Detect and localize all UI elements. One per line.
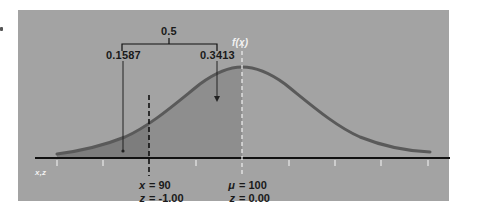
z-value: = -1.00 (149, 192, 184, 205)
normal-distribution-diagram: 0.5 0.1587 0.3413 f(x) x,z x= 90 z= -1.0… (0, 0, 484, 223)
normal-curve (57, 67, 430, 154)
x-var: x (136, 179, 145, 192)
mu-value: = 100 (239, 179, 267, 192)
axis-label: x,z (35, 168, 46, 177)
x90-annotation: x= 90 z= -1.00 (136, 179, 184, 205)
mu-var: μ (226, 179, 235, 192)
x-value: = 90 (149, 179, 171, 192)
total-area-label: 0.5 (161, 25, 177, 37)
z-var: z (226, 192, 235, 205)
z-value: = 0.00 (239, 192, 270, 205)
right-area-label: 0.3413 (200, 49, 235, 61)
mean-annotation: μ= 100 z= 0.00 (226, 179, 270, 205)
z-var: z (136, 192, 145, 205)
left-area-label: 0.1587 (106, 49, 141, 61)
curve-label: f(x) (232, 37, 248, 48)
